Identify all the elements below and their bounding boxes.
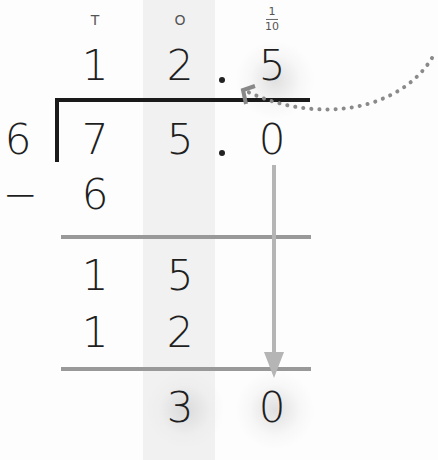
step1-tens: 6 [82,174,109,216]
step2-ones: 5 [167,255,194,297]
bring-down-arrow-head [264,352,284,378]
division-graphics [0,0,438,460]
remainder-ones: 3 [167,387,194,429]
step3-ones: 2 [167,312,194,354]
step3-tens: 1 [82,312,109,354]
dividend-tenths: 0 [259,119,286,161]
minus-sign: − [2,174,37,216]
dividend-tens: 7 [82,119,109,161]
dividend-ones: 5 [167,119,194,161]
remainder-tenths: 0 [259,387,286,429]
dividend-decimal-point [219,150,225,156]
step2-tens: 1 [82,255,109,297]
divisor: 6 [5,119,32,161]
